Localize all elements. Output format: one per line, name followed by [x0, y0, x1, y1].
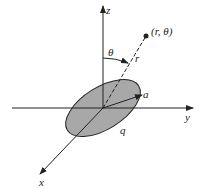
- a-label: a: [143, 88, 149, 100]
- x-label: x: [38, 176, 44, 188]
- y-label: y: [184, 111, 190, 123]
- r-label: r: [135, 52, 140, 64]
- z-label: z: [105, 4, 111, 16]
- q-label: q: [120, 124, 126, 136]
- theta-label: θ: [108, 46, 114, 58]
- point-label: (r, θ): [151, 25, 173, 38]
- charged-disk-diagram: z y x (r, θ) θ r a q: [0, 0, 205, 189]
- field-point: [144, 34, 149, 39]
- theta-arc: [103, 58, 128, 63]
